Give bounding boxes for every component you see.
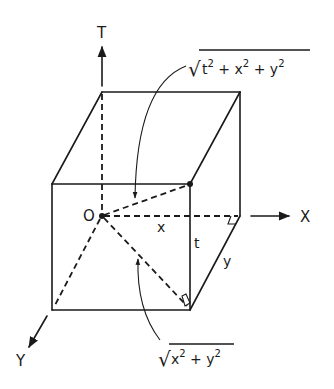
- space-diagonal-leader-arrow: [135, 66, 186, 198]
- term-base: x: [171, 351, 179, 367]
- box-diagram: T X Y O x t y √ t2 + x2 + y2 √ x2 + y2: [0, 0, 334, 389]
- left-top-edge: [52, 92, 102, 184]
- floor-diagonal: [104, 218, 187, 306]
- t-axis-label: T: [96, 24, 107, 42]
- y-axis-label: Y: [15, 352, 26, 370]
- y-hidden-edge: [54, 219, 100, 307]
- term-base: y: [206, 351, 214, 367]
- right-top-edge: [190, 92, 240, 184]
- t-edge-label: t: [194, 235, 200, 251]
- formula-text: t2 + x2 + y2: [202, 58, 285, 77]
- far-corner-point: [187, 181, 193, 187]
- term-op: +: [186, 351, 207, 367]
- term-op: +: [214, 61, 235, 77]
- right-angle-marker-xy: [228, 216, 236, 224]
- right-angle-marker-floor: [182, 294, 190, 306]
- space-diagonal-formula: √ t2 + x2 + y2: [188, 50, 310, 81]
- x-edge-label: x: [157, 219, 165, 235]
- term-base: x: [235, 61, 243, 77]
- origin-point: [99, 213, 105, 219]
- term-exp: 2: [215, 348, 221, 359]
- x-axis-label: X: [300, 208, 310, 226]
- term-exp: 2: [278, 58, 284, 69]
- floor-diagonal-formula: √ x2 + y2: [158, 344, 234, 371]
- radical-sign: √: [188, 57, 201, 81]
- space-diagonal: [104, 185, 188, 215]
- hidden-edges: [54, 94, 238, 307]
- formula-text: x2 + y2: [171, 348, 221, 367]
- origin-label: O: [83, 207, 95, 225]
- diagram-stage: T X Y O x t y √ t2 + x2 + y2 √ x2 + y2: [0, 0, 334, 389]
- y-edge-label: y: [223, 253, 231, 269]
- term-base: y: [270, 61, 278, 77]
- term-op: +: [249, 61, 270, 77]
- floor-diagonal-leader-arrow: [138, 259, 160, 340]
- right-bottom-edge: [190, 216, 240, 310]
- radical-sign: √: [158, 347, 171, 371]
- y-axis-arrow: [29, 316, 47, 347]
- box-edges: [52, 92, 240, 310]
